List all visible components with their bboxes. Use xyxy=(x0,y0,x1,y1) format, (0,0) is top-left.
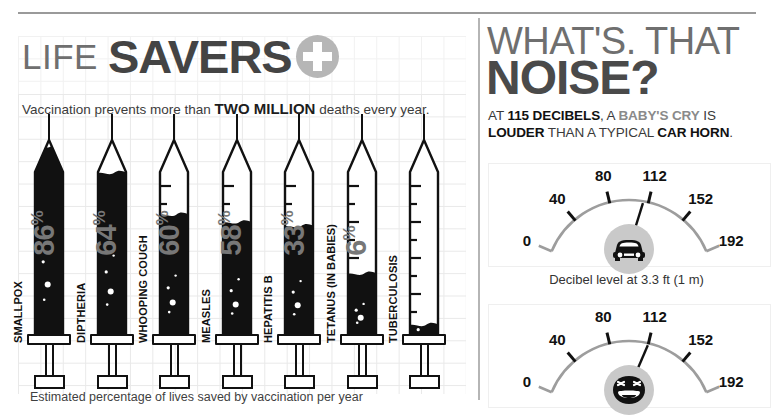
gauge-tick-label: 80 xyxy=(595,167,612,184)
percentage-value: 60 xyxy=(153,225,185,255)
syringe-percentage: 6% xyxy=(341,226,371,255)
syringe-percentage: 64% xyxy=(91,211,121,255)
gauge-tick-label: 152 xyxy=(688,190,713,207)
gauge-tick-label: 40 xyxy=(549,190,566,207)
percentage-value: 86 xyxy=(28,225,60,255)
gauge-tick-label: 0 xyxy=(523,232,531,249)
percentage-value: 64 xyxy=(90,225,122,255)
gauge-tick-label: 192 xyxy=(719,232,744,249)
syringe-percentage: 33% xyxy=(279,211,309,255)
gauge-tick-label: 80 xyxy=(595,308,612,325)
sub2-b: THAN A TYPICAL xyxy=(544,125,657,140)
noise-subtitle-line2: LOUDER THAN A TYPICAL CAR HORN. xyxy=(488,125,772,141)
noise-title-line2: NOISE? xyxy=(486,54,659,102)
crying-baby-icon xyxy=(604,365,654,415)
noise-panel: WHAT'S. THAT NOISE? AT 115 DECIBELS, A B… xyxy=(486,16,774,417)
syringe-plunger-head xyxy=(159,375,190,389)
syringe-needle-icon xyxy=(423,114,425,140)
left-footer-caption: Estimated percentage of lives saved by v… xyxy=(30,390,363,404)
syringe-plunger-rod xyxy=(108,345,117,377)
sub2-louder: LOUDER xyxy=(488,125,544,140)
panel-divider xyxy=(478,18,480,400)
sub1-decibels: 115 DECIBELS xyxy=(507,108,600,123)
sub1-e: IS xyxy=(700,108,716,123)
syringe-flange xyxy=(340,334,384,345)
syringe-disease-label: DIPTHERIA xyxy=(76,283,87,343)
percentage-symbol: % xyxy=(28,211,47,225)
syringe-disease-label: TUBERCULOSIS xyxy=(388,255,399,343)
syringe-percentage: 86% xyxy=(29,211,59,255)
syringe-chart: 100%SMALLPOX86%DIPTHERIA64%WHOOPING COUG… xyxy=(0,16,470,417)
sub2-car-horn: CAR HORN xyxy=(657,125,729,140)
sub2-d: . xyxy=(729,125,733,140)
gauge-caption: Decibel level at 3.3 ft (1 m) xyxy=(486,272,767,287)
syringe-plunger-head xyxy=(222,375,253,389)
sub1-a: AT xyxy=(488,108,507,123)
syringe-percentage: 58% xyxy=(216,211,246,255)
percentage-symbol: % xyxy=(340,226,359,240)
percentage-value: 6 xyxy=(340,241,372,256)
sub1-c: , A xyxy=(600,108,618,123)
gauge-tick-label: 192 xyxy=(719,373,744,390)
percentage-symbol: % xyxy=(215,211,234,225)
syringe-barrel xyxy=(408,138,440,336)
gauge-tick-label: 112 xyxy=(643,167,667,184)
gauge-tick-label: 152 xyxy=(688,331,713,348)
syringe-flange xyxy=(27,334,71,345)
syringe-needle-icon xyxy=(361,114,363,140)
syringe-plunger-head xyxy=(284,375,315,389)
syringe-needle-icon xyxy=(111,114,113,140)
syringe-plunger-rod xyxy=(295,345,304,377)
syringe-flange xyxy=(90,334,134,345)
syringe-flange xyxy=(277,334,321,345)
gauge-tick-label: 40 xyxy=(549,331,566,348)
syringe-disease-label: HEPATITIS B xyxy=(263,275,274,343)
syringe-plunger-head xyxy=(34,375,65,389)
percentage-symbol: % xyxy=(278,211,297,225)
percentage-value: 33 xyxy=(278,225,310,255)
syringe-plunger-head xyxy=(97,375,128,389)
syringe-needle-icon xyxy=(236,114,238,140)
syringe-needle-icon xyxy=(173,114,175,140)
syringe-disease-label: TETANUS (IN BABIES) xyxy=(326,224,337,343)
infographic-page: LIFE SAVERS Vaccination prevents more th… xyxy=(0,0,774,417)
percentage-symbol: % xyxy=(153,211,172,225)
syringe-disease-label: WHOOPING COUGH xyxy=(138,235,149,343)
percentage-value: 58 xyxy=(215,225,247,255)
syringe-plunger-rod xyxy=(233,345,242,377)
car-gauge: 04080112152192 xyxy=(488,163,771,267)
sub1-babys-cry: BABY'S CRY xyxy=(618,108,699,123)
syringe-plunger-rod xyxy=(45,345,54,377)
syringe-disease-label: SMALLPOX xyxy=(13,281,24,343)
life-savers-panel: LIFE SAVERS Vaccination prevents more th… xyxy=(0,16,470,417)
syringe-disease-label: MEASLES xyxy=(201,289,212,343)
baby-gauge: 04080112152192 xyxy=(488,304,771,408)
syringe-plunger-rod xyxy=(170,345,179,377)
syringe-plunger-head xyxy=(409,375,440,389)
gauge-tick-label: 0 xyxy=(523,373,531,390)
syringe-plunger-rod xyxy=(420,345,429,377)
syringe-needle-icon xyxy=(48,114,50,140)
car-icon xyxy=(604,224,654,274)
syringe-plunger-rod xyxy=(358,345,367,377)
syringe-flange xyxy=(402,334,446,345)
syringe-plunger-head xyxy=(347,375,378,389)
percentage-symbol: % xyxy=(90,211,109,225)
syringe-percentage: 60% xyxy=(154,211,184,255)
syringe-flange xyxy=(152,334,196,345)
syringe-flange xyxy=(215,334,259,345)
syringe-needle-icon xyxy=(298,114,300,140)
top-divider xyxy=(18,12,756,14)
noise-subtitle-line1: AT 115 DECIBELS, A BABY'S CRY IS xyxy=(488,108,772,124)
gauge-tick-label: 112 xyxy=(643,308,667,325)
